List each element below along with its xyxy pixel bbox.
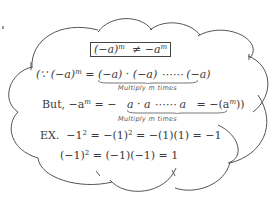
example1-part3: = −(1)(1) = −1 xyxy=(136,129,222,142)
formula-lhs-exponent: m xyxy=(118,43,125,51)
reason-caption: Multiply m times xyxy=(118,84,177,92)
reason-equals: = xyxy=(85,68,94,81)
reason-prefix: (∵ (−a) xyxy=(36,68,75,81)
example2-part2: = (−1)(−1) = 1 xyxy=(93,149,179,162)
example2-part1: (−1) xyxy=(60,149,85,162)
boxed-formula: (−a)m ≠ −am xyxy=(90,42,171,57)
but-suffix-end: )) xyxy=(236,98,245,111)
example-label: EX. xyxy=(40,129,59,142)
underbrace-icon xyxy=(127,110,227,114)
but-prefix: But, −a xyxy=(42,98,84,111)
example1-part2: = −(1) xyxy=(91,129,129,142)
but-product-group: a · a ⋯⋯ a xyxy=(127,99,186,111)
title-formula: (−a)m ≠ −am xyxy=(90,44,171,56)
but-equals: = − xyxy=(95,98,117,111)
example-line-2: (−1)2 = (−1)(−1) = 1 xyxy=(60,150,178,162)
reason-line: (∵ (−a)m = (−a) · (−a) ⋯⋯ (−a) xyxy=(36,69,211,81)
reason-product-group: (−a) · (−a) ⋯⋯ (−a) xyxy=(98,69,211,81)
example1-part1-exponent: 2 xyxy=(83,129,87,137)
formula-rhs-exponent: m xyxy=(161,43,168,51)
example1-part2-exponent: 2 xyxy=(128,129,132,137)
but-prefix-exponent: m xyxy=(84,98,91,106)
formula-lhs: (−a) xyxy=(94,43,118,56)
formula-rhs: −a xyxy=(145,43,161,56)
math-note-canvas: (−a)m ≠ −am (∵ (−a)m = (−a) · (−a) ⋯⋯ (−… xyxy=(0,0,280,198)
example1-part1: −1 xyxy=(66,129,82,142)
but-caption: Multiply m times xyxy=(118,115,177,123)
formula-relation: ≠ xyxy=(132,43,141,56)
example-line-1: EX. −12 = −(1)2 = −(1)(1) = −1 xyxy=(40,130,222,142)
reason-prefix-exponent: m xyxy=(75,68,82,76)
example2-part1-exponent: 2 xyxy=(85,149,89,157)
but-line: But, −am = − a · a ⋯⋯ a = −(am)) xyxy=(42,99,245,111)
